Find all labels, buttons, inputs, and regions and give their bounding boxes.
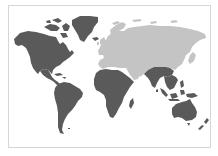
region-southeast-asia (164, 75, 178, 90)
region-africa (94, 69, 134, 118)
region-australia (172, 99, 197, 121)
region-tasmania (187, 123, 190, 126)
world-map (0, 0, 218, 156)
region-south-america (54, 82, 83, 134)
region-madagascar (129, 98, 134, 109)
region-central-america (40, 69, 66, 85)
region-falklands (68, 128, 70, 129)
region-new-zealand (198, 118, 209, 130)
region-sri-lanka (156, 89, 158, 92)
region-canadian-arctic (44, 18, 70, 38)
region-iceland (92, 37, 99, 41)
region-japan (188, 52, 196, 64)
